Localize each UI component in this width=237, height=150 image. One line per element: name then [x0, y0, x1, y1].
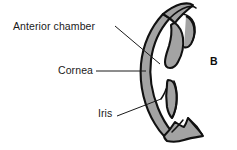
upper-iris-body	[165, 14, 195, 68]
label-cornea: Cornea	[58, 64, 93, 76]
label-anterior-chamber: Anterior chamber	[13, 20, 95, 32]
panel-letter-b: B	[210, 55, 218, 67]
lower-limbus-and-ciliary-tissue	[164, 118, 203, 142]
eye-anatomy-figure: Anterior chamber Cornea Iris B	[0, 0, 237, 150]
lower-iris-body	[161, 80, 177, 118]
label-iris: Iris	[98, 107, 112, 119]
corneal-arc-tissue	[141, 14, 172, 136]
